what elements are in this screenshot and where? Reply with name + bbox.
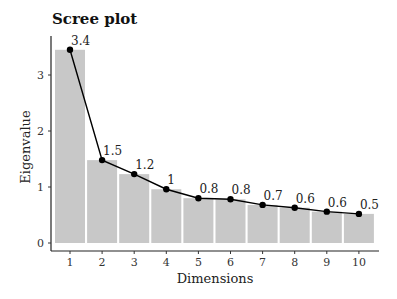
x-tick-label: 2 bbox=[99, 256, 106, 269]
y-tick-label: 0 bbox=[37, 237, 44, 250]
x-tick-label: 1 bbox=[67, 256, 74, 269]
data-label: 1 bbox=[167, 173, 175, 187]
bar bbox=[216, 199, 246, 243]
data-labels: 3.41.51.210.80.80.70.60.60.5 bbox=[71, 34, 379, 212]
bar bbox=[151, 189, 181, 243]
y-axis-title: Eigenvalue bbox=[18, 110, 33, 184]
y-tick-label: 2 bbox=[37, 125, 44, 138]
x-tick-label: 9 bbox=[323, 256, 330, 269]
x-tick-label: 4 bbox=[163, 256, 170, 269]
data-label: 1.5 bbox=[103, 144, 122, 158]
bar bbox=[344, 214, 374, 243]
bar bbox=[119, 174, 149, 243]
x-tick-label: 6 bbox=[227, 256, 234, 269]
data-label: 0.6 bbox=[296, 192, 315, 206]
x-tick-label: 8 bbox=[291, 256, 298, 269]
data-label: 0.7 bbox=[264, 189, 283, 203]
y-tick-label: 1 bbox=[37, 181, 44, 194]
data-label: 0.6 bbox=[328, 196, 347, 210]
chart-title: Scree plot bbox=[52, 10, 137, 28]
y-ticks: 0123 bbox=[37, 69, 51, 250]
x-tick-label: 3 bbox=[131, 256, 138, 269]
x-tick-label: 7 bbox=[259, 256, 266, 269]
x-axis-title: Dimensions bbox=[177, 271, 254, 286]
data-label: 0.8 bbox=[232, 183, 251, 197]
bar bbox=[183, 198, 213, 243]
x-ticks: 12345678910 bbox=[67, 251, 366, 269]
scree-plot-chart: Scree plot 3.41.51.210.80.80.70.60.60.5 … bbox=[0, 0, 397, 299]
bar bbox=[248, 205, 278, 243]
bar bbox=[87, 160, 117, 243]
bar bbox=[55, 50, 85, 243]
data-label: 0.8 bbox=[199, 182, 218, 196]
bar bbox=[280, 208, 310, 243]
bar bbox=[312, 212, 342, 243]
y-tick-label: 3 bbox=[37, 69, 44, 82]
data-label: 0.5 bbox=[360, 198, 379, 212]
x-tick-label: 10 bbox=[352, 256, 366, 269]
x-tick-label: 5 bbox=[195, 256, 202, 269]
data-label: 3.4 bbox=[71, 34, 90, 48]
data-label: 1.2 bbox=[135, 158, 154, 172]
